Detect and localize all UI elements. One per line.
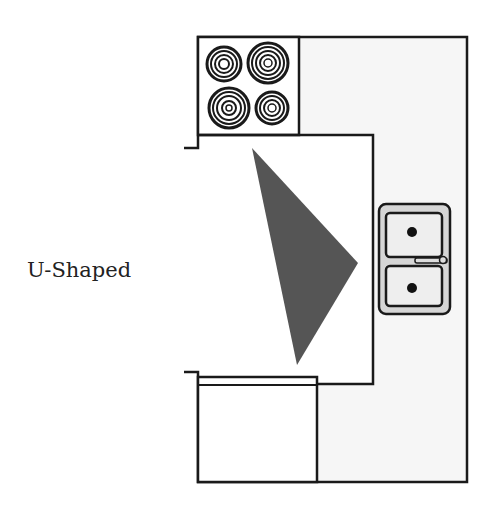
work-triangle	[252, 148, 358, 365]
sink	[379, 204, 450, 314]
refrigerator	[198, 377, 317, 482]
kitchen-floorplan	[0, 0, 496, 511]
